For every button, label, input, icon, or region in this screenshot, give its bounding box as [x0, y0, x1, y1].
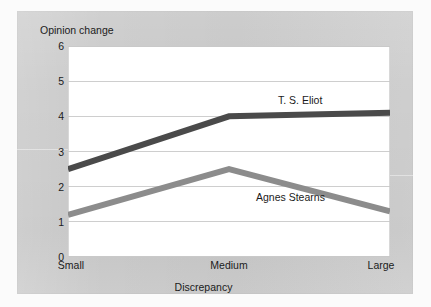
series-lines [68, 113, 390, 215]
series-line [68, 113, 390, 169]
y-tick-label: 6 [46, 40, 64, 52]
y-tick-label: 2 [46, 181, 64, 193]
x-tick-label: Large [368, 259, 395, 271]
y-tick-label: 5 [46, 75, 64, 87]
y-axis-title: Opinion change [40, 24, 114, 36]
series-label-eliot: T. S. Eliot [278, 94, 322, 106]
y-tick-label: 4 [46, 110, 64, 122]
series-line [68, 169, 390, 215]
x-axis-title-text: Discrepancy [175, 281, 233, 293]
x-axis-title: Discrepancy [0, 281, 431, 293]
y-tick-label: 1 [46, 216, 64, 228]
y-tick-label: 3 [46, 146, 64, 158]
series-label-agnes: Agnes Stearns [256, 191, 325, 203]
x-tick-label: Medium [210, 259, 247, 271]
y-axis-tick-labels: 6 5 4 3 2 1 0 [44, 46, 64, 257]
chart-svg [68, 46, 390, 257]
plot-area [68, 46, 390, 257]
x-axis-tick-labels: Small Medium Large [68, 259, 390, 275]
figure-canvas: Opinion change 6 5 4 3 2 1 0 Small Mediu… [0, 0, 431, 307]
x-tick-label: Small [58, 259, 84, 271]
